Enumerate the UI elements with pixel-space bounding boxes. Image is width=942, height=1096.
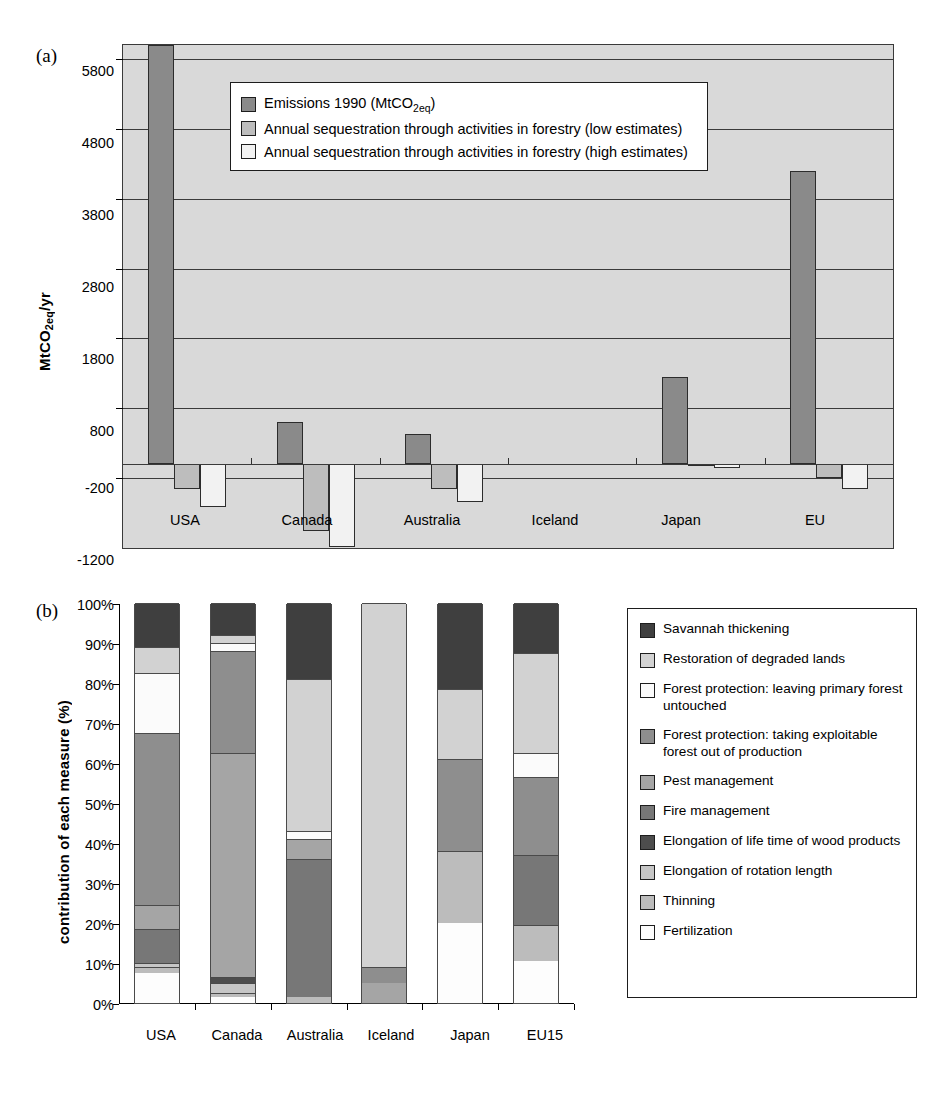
legend-swatch-primary-forest — [640, 683, 655, 698]
chart-a-legend: Emissions 1990 (MtCO2eq) Annual sequestr… — [230, 82, 708, 171]
chart-b-ytick-90: 90% — [46, 638, 114, 653]
chart-b-segment-japan-s8 — [438, 689, 482, 759]
chart-a-xtick-iceland: Iceland — [510, 513, 600, 528]
chart-a-gridline-1800 — [123, 338, 893, 339]
chart-b-ytick-30: 30% — [46, 878, 114, 893]
chart-b-xtick-eu15: EU15 — [500, 1028, 590, 1043]
chart-b-legend-label-4: Pest management — [663, 773, 773, 790]
chart-b-segment-eu15-s6 — [514, 777, 558, 855]
legend-swatch-fire-management — [640, 805, 655, 820]
chart-a-bar-australia-s2 — [457, 464, 483, 502]
chart-a-xtick-eu: EU — [770, 513, 860, 528]
chart-b-segment-canada-s9 — [211, 603, 255, 635]
chart-a-legend-item-low: Annual sequestration through activities … — [241, 121, 697, 137]
legend-swatch-emissions — [241, 97, 256, 112]
chart-b-segment-eu15-s4 — [514, 855, 558, 925]
legend-swatch-restoration — [640, 653, 655, 668]
chart-a-bar-canada-s0 — [277, 422, 303, 464]
chart-b-xtick-mark-iceland — [422, 1004, 423, 1010]
chart-b-segment-canada-s2 — [211, 983, 255, 993]
chart-a-bar-usa-s2 — [200, 464, 226, 507]
chart-a-legend-label-emissions: Emissions 1990 (MtCO2eq) — [264, 95, 435, 114]
chart-a-bar-canada-s2 — [329, 464, 355, 546]
chart-b-segment-japan-s9 — [438, 603, 482, 689]
legend-swatch-savannah-thickening — [640, 623, 655, 638]
chart-b-y-axis-line — [119, 604, 120, 1004]
chart-a-bar-eu-s1 — [816, 464, 842, 478]
chart-b-segment-usa-s7 — [135, 673, 179, 733]
chart-b-segment-canada-s0 — [211, 997, 255, 1003]
chart-b-segment-usa-s5 — [135, 905, 179, 929]
legend-swatch-wood-products — [640, 835, 655, 850]
chart-a-ytick-2800: 2800 — [52, 280, 114, 295]
chart-a-legend-item-high: Annual sequestration through activities … — [241, 144, 697, 160]
chart-a-bar-eu-s2 — [842, 464, 868, 488]
chart-b-ytick-50: 50% — [46, 798, 114, 813]
chart-b-ytick-60: 60% — [46, 758, 114, 773]
chart-b-segment-canada-s6 — [211, 651, 255, 753]
chart-a-xtick-japan: Japan — [636, 513, 726, 528]
chart-b-segment-usa-s6 — [135, 733, 179, 905]
chart-b-stacked-bar-canada — [210, 604, 256, 1004]
chart-b-segment-eu15-s1 — [514, 925, 558, 961]
chart-b-stacked-bar-japan — [437, 604, 483, 1004]
chart-b-ytick-20: 20% — [46, 918, 114, 933]
chart-a-legend-label-low: Annual sequestration through activities … — [264, 121, 682, 137]
chart-b-segment-eu15-s9 — [514, 603, 558, 653]
chart-b-segment-canada-s8 — [211, 635, 255, 643]
chart-a-gridline-2800 — [123, 269, 893, 270]
legend-swatch-high-estimates — [241, 144, 256, 159]
chart-a-ytick--200: -200 — [52, 481, 114, 496]
chart-b-legend-label-6: Elongation of life time of wood products — [663, 833, 900, 850]
chart-b-segment-canada-s7 — [211, 643, 255, 651]
chart-b-ytick-10: 10% — [46, 958, 114, 973]
chart-a-ytick-mark-2800 — [116, 269, 123, 270]
chart-b-segment-japan-s1 — [438, 851, 482, 923]
chart-a-xtick-australia: Australia — [382, 513, 482, 528]
chart-a-ytick-mark-800 — [116, 408, 123, 409]
chart-a-ytick-mark-1800 — [116, 338, 123, 339]
chart-b-legend: Savannah thickening Restoration of degra… — [627, 608, 917, 998]
chart-a-ytick-mark--200 — [116, 478, 123, 479]
chart-b-segment-usa-s0 — [135, 973, 179, 1003]
chart-a-ytick-mark-4800 — [116, 129, 123, 130]
chart-b-legend-item-1: Restoration of degraded lands — [640, 651, 906, 668]
chart-b-legend-label-8: Thinning — [663, 893, 715, 910]
chart-b-stacked-bar-eu15 — [513, 604, 559, 1004]
legend-swatch-low-estimates — [241, 121, 256, 136]
chart-b-ytick-0: 0% — [46, 998, 114, 1013]
chart-b-xtick-mark-australia — [347, 1004, 348, 1010]
chart-b-xtick-mark-japan — [498, 1004, 499, 1010]
legend-swatch-rotation-length — [640, 865, 655, 880]
chart-b-legend-label-1: Restoration of degraded lands — [663, 651, 845, 668]
chart-b-legend-item-4: Pest management — [640, 773, 906, 790]
chart-b-segment-usa-s2 — [135, 963, 179, 967]
chart-b-legend-label-9: Fertilization — [663, 923, 733, 940]
chart-a-ytick--1200: -1200 — [52, 553, 114, 568]
chart-b-segment-iceland-s6 — [362, 967, 406, 983]
chart-a-ytick-1800: 1800 — [52, 352, 114, 367]
chart-b-segment-eu15-s7 — [514, 753, 558, 777]
figure-container: (a) MtCO2eq/yr 5800 4800 3800 2800 1800 … — [0, 0, 942, 1096]
chart-b-y-axis-title: contribution of each measure (%) — [55, 700, 72, 944]
chart-b-xtick-iceland: Iceland — [346, 1028, 436, 1043]
chart-b-segment-usa-s8 — [135, 647, 179, 673]
chart-b-legend-item-7: Elongation of rotation length — [640, 863, 906, 880]
chart-b-legend-label-5: Fire management — [663, 803, 770, 820]
chart-b-stacked-bar-iceland — [361, 604, 407, 1004]
legend-swatch-pest-management — [640, 775, 655, 790]
chart-a-legend-item-emissions: Emissions 1990 (MtCO2eq) — [241, 95, 697, 114]
chart-b-legend-item-6: Elongation of life time of wood products — [640, 833, 906, 850]
chart-a-bar-australia-s0 — [405, 434, 431, 464]
chart-b-xtick-mark-canada — [271, 1004, 272, 1010]
chart-b-segment-canada-s3 — [211, 977, 255, 983]
chart-a-y-axis-title-tail: /yr — [36, 292, 53, 311]
chart-a-xtick-usa: USA — [140, 513, 230, 528]
chart-b-ytick-100: 100% — [46, 598, 114, 613]
chart-b-segment-iceland-s5 — [362, 983, 406, 1003]
chart-b-segment-australia-s7 — [287, 831, 331, 839]
chart-b-legend-label-2: Forest protection: leaving primary fores… — [663, 681, 906, 714]
chart-b-segment-australia-s4 — [287, 859, 331, 997]
chart-b-ytick-80: 80% — [46, 678, 114, 693]
chart-b-legend-label-7: Elongation of rotation length — [663, 863, 832, 880]
